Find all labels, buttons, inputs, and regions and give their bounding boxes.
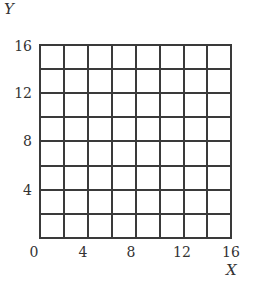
y-tick-16: 16 (6, 39, 32, 53)
y-tick-4: 4 (6, 183, 32, 197)
x-tick-12: 12 (167, 245, 197, 259)
x-tick-0: 0 (19, 245, 49, 259)
grid-lines (39, 44, 232, 239)
coordinate-grid (39, 44, 232, 239)
y-tick-12: 12 (6, 86, 32, 100)
x-tick-4: 4 (68, 245, 98, 259)
x-axis-label: X (226, 263, 237, 278)
x-tick-8: 8 (116, 245, 146, 259)
y-tick-8: 8 (6, 134, 32, 148)
x-tick-16: 16 (216, 245, 246, 259)
y-axis-label: Y (4, 2, 14, 17)
